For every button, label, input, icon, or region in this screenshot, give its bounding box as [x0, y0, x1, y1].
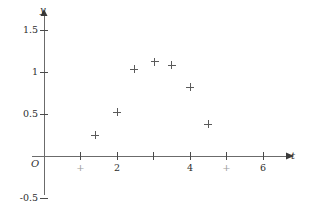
data-point-marker — [168, 61, 176, 69]
x-tick-label-6: 6 — [254, 162, 272, 173]
plot-canvas — [0, 0, 310, 216]
axes-group — [32, 14, 286, 195]
data-markers-group — [91, 58, 212, 139]
data-point-marker — [186, 83, 194, 91]
data-point-marker — [151, 58, 159, 66]
y-tick-label--0.5: -0.5 — [2, 192, 38, 203]
data-point-marker — [113, 108, 121, 116]
x-axis-label: t — [291, 150, 295, 161]
y-tick-label-1: 1 — [2, 66, 38, 77]
x-tick-label-4: 4 — [181, 162, 199, 173]
x-tick-label-1: + — [72, 162, 90, 173]
y-tick-label-1.5: 1.5 — [2, 24, 38, 35]
scatter-plot-figure: +24+61.510.5-0.5 y t O — [0, 0, 310, 216]
axis-arrow-heads — [41, 9, 295, 160]
y-tick-label-0.5: 0.5 — [2, 108, 38, 119]
data-point-marker — [130, 65, 138, 73]
x-tick-label-5: + — [218, 162, 236, 173]
y-axis-label: y — [40, 4, 46, 15]
data-point-marker — [204, 120, 212, 128]
origin-label: O — [31, 158, 39, 169]
x-tick-label-2: 2 — [108, 162, 126, 173]
data-point-marker — [91, 131, 99, 139]
